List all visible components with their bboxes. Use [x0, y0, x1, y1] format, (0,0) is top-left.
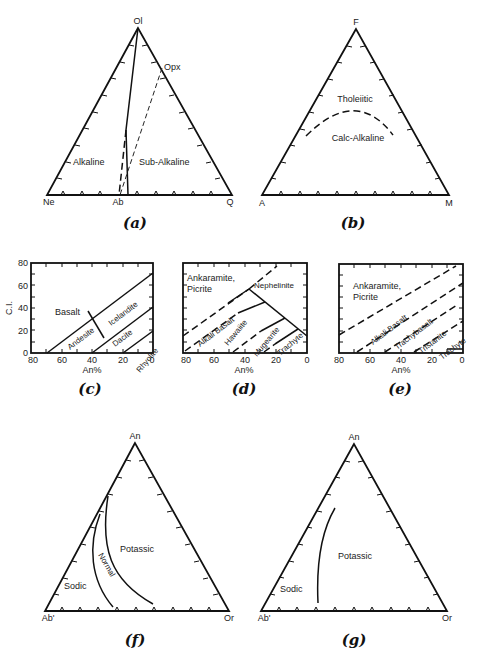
caption-b: (b) [341, 214, 366, 232]
vertex-q: Q [226, 197, 233, 207]
vertex-ab-prime-f: Ab' [42, 613, 55, 623]
xtick-0-e: 0 [459, 355, 464, 365]
alkali-basalt-boundary-solid [238, 302, 265, 313]
caption-e: (e) [388, 380, 412, 398]
xtick-20: 20 [118, 355, 128, 365]
ternary-triangle-b [262, 29, 449, 195]
xtick-60: 60 [57, 355, 67, 365]
panel-g: An Ab' Or Sodic Potassic (g) [258, 432, 452, 649]
vertex-or-g: Or [442, 613, 452, 623]
base-point-ab: Ab [112, 197, 123, 207]
xtick-40: 40 [87, 355, 97, 365]
xtick-20-e: 20 [427, 355, 437, 365]
vertex-a: A [259, 198, 265, 208]
ticks-a [57, 45, 220, 195]
ternary-triangle-a [47, 28, 232, 195]
region-picrite-e: Picrite [353, 292, 378, 302]
vertex-ol: Ol [134, 16, 143, 26]
vertex-ab-prime-g: Ab' [258, 613, 271, 623]
x-axis-label-e: An% [391, 365, 410, 375]
xtick-60-e: 60 [365, 355, 375, 365]
edge-point-opx: Opx [164, 62, 181, 72]
caption-g: (g) [342, 631, 367, 649]
panel-f: An Ab' Or Sodic Normal Potassic (f) [42, 431, 234, 649]
ytick-60: 60 [18, 281, 28, 291]
caption-f: (f) [125, 631, 146, 649]
panel-e: 80 60 40 20 0 An% Ankaramite, Picrite Al… [334, 264, 468, 398]
caption-a: (a) [123, 214, 147, 232]
panel-b: F A M Tholeiitic Calc-Alkaline (b) [259, 17, 453, 232]
region-rhyolite: Rhyolite [135, 346, 161, 374]
region-sub-alkaline: Sub-Alkaline [139, 157, 190, 167]
vertex-an-f: An [129, 431, 140, 441]
panel-d: 80 60 40 20 0 An% Ankaramite, Picrite Ne… [181, 263, 310, 398]
y-axis-label-c: C.I. [4, 301, 14, 315]
vertex-f: F [353, 17, 359, 27]
region-calc-alkaline: Calc-Alkaline [332, 133, 385, 143]
ytick-20: 20 [18, 326, 28, 336]
ankaramite-boundary-solid [228, 289, 249, 303]
xtick-80: 80 [28, 355, 38, 365]
region-basalt: Basalt [55, 307, 81, 317]
ticks-b [271, 46, 440, 195]
region-sodic-g: Sodic [280, 584, 303, 594]
region-sodic-f: Sodic [64, 581, 87, 591]
caption-c: (c) [78, 380, 101, 398]
xtick-40-d: 40 [240, 355, 250, 365]
xtick-80-d: 80 [181, 355, 191, 365]
x-axis-label-d: An% [234, 365, 253, 375]
region-andesite: Andesite [66, 325, 97, 351]
sodic-potassic-boundary [318, 508, 335, 603]
region-potassic-f: Potassic [120, 544, 155, 554]
panel-c: 0 20 40 60 80 C.I. 80 60 40 20 0 An% Bas… [4, 258, 160, 398]
panel-a: Ol Ne Q Ab Opx Alkaline Sub-Alkaline (a) [43, 16, 234, 232]
vertex-or-f: Or [224, 613, 234, 623]
xtick-60-d: 60 [209, 355, 219, 365]
region-picrite: Picrite [187, 284, 212, 294]
caption-d: (d) [232, 380, 257, 398]
ytick-80: 80 [18, 258, 28, 268]
region-ankaramite: Ankaramite, [187, 273, 235, 283]
vertex-ne: Ne [43, 197, 55, 207]
x-axis-label-c: An% [82, 365, 101, 375]
region-nephelinite: Nephelinite [254, 281, 295, 290]
region-potassic-g: Potassic [338, 551, 373, 561]
xtick-0-d: 0 [304, 355, 309, 365]
region-alkaline: Alkaline [73, 157, 105, 167]
xtick-40-e: 40 [396, 355, 406, 365]
vertex-m: M [445, 198, 453, 208]
ytick-40: 40 [18, 303, 28, 313]
vertex-an-g: An [348, 432, 359, 442]
region-ankaramite-e: Ankaramite, [353, 281, 401, 291]
figure-canvas: Ol Ne Q Ab Opx Alkaline Sub-Alkaline (a)… [0, 0, 478, 660]
region-tholeiitic: Tholeiitic [337, 94, 373, 104]
alkaline-boundary-dashed [119, 130, 126, 195]
xtick-80-e: 80 [334, 355, 344, 365]
